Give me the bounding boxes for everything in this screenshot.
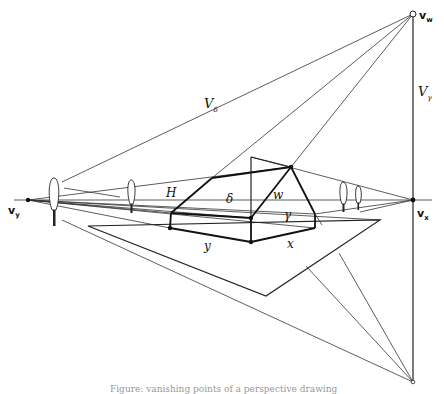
label-V-delta-main: V	[204, 96, 213, 111]
point-left-bottom	[168, 226, 172, 230]
figure-caption: Figure: vanishing points of a perspectiv…	[110, 384, 337, 394]
label-y: y	[204, 240, 211, 252]
point-front-top	[249, 216, 253, 220]
point-vy	[26, 198, 30, 202]
perspective-diagram	[0, 0, 444, 394]
triangle-top	[251, 157, 291, 167]
label-gamma: γ	[284, 209, 291, 221]
house-left-edge	[170, 213, 171, 228]
house-edge-x	[251, 228, 315, 242]
label-w: w	[273, 189, 283, 201]
point-vw	[410, 11, 416, 17]
label-H: H	[166, 187, 176, 199]
vx-ray-2	[315, 200, 413, 214]
label-V-delta: Vδ	[204, 97, 218, 114]
point-vbottom	[411, 380, 415, 384]
ground-plane	[88, 220, 380, 296]
label-x: x	[287, 238, 294, 250]
label-vy: vy	[8, 205, 20, 219]
label-vw: vw	[419, 10, 433, 24]
label-vx-sub: x	[424, 214, 429, 222]
point-front-bottom	[249, 240, 253, 244]
line-vbottom-3	[339, 253, 413, 382]
right-slope-ext	[315, 214, 322, 225]
point-vx	[411, 198, 416, 203]
label-vx: vx	[417, 208, 429, 222]
label-V-gamma-main: V	[418, 84, 427, 99]
line-vw-peak	[291, 14, 413, 167]
label-V-gamma-sub: γ	[427, 94, 431, 102]
label-V-delta-sub: δ	[213, 106, 217, 114]
label-V-gamma: Vγ	[418, 85, 432, 102]
tree-icon-large-left	[49, 178, 59, 226]
line-vbottom-1	[62, 220, 413, 382]
line-vbottom-2	[306, 266, 413, 382]
label-vy-sub: y	[15, 211, 20, 219]
tree-icon-right-2	[356, 186, 362, 210]
point-roof-peak	[289, 165, 293, 169]
house-roof-right	[291, 167, 315, 214]
tree-icon-right-1	[340, 182, 347, 212]
label-vw-sub: w	[426, 16, 432, 24]
label-delta: δ	[226, 193, 233, 205]
vx-ray-3	[360, 200, 413, 212]
